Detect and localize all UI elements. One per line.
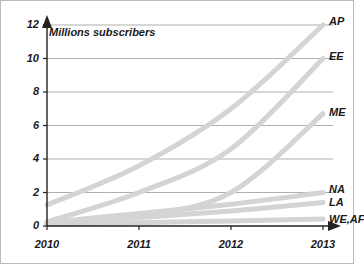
x-tick-label: 2011	[117, 238, 161, 250]
series-label-na: NA	[329, 183, 345, 195]
series-label-la: LA	[329, 196, 344, 208]
y-tick-label: 0	[19, 219, 39, 231]
x-tick-label: 2013	[301, 238, 345, 250]
y-tick-label: 8	[19, 85, 39, 97]
gridlines-group	[47, 25, 333, 193]
series-label-me: ME	[329, 106, 346, 118]
y-tick-label: 4	[19, 152, 39, 164]
series-label-ap: AP	[329, 15, 344, 27]
x-tick-label: 2012	[209, 238, 253, 250]
x-tick-label: 2010	[25, 238, 69, 250]
series-line	[47, 25, 323, 205]
y-tick-label: 6	[19, 119, 39, 131]
series-label-ee: EE	[329, 50, 344, 62]
axis-title: Millions subscribers	[49, 25, 155, 39]
series-label-we-af: WE,AF	[329, 213, 364, 225]
y-tick-label: 12	[19, 18, 39, 30]
y-tick-label: 10	[19, 52, 39, 64]
y-tick-label: 2	[19, 186, 39, 198]
chart-canvas	[1, 1, 355, 264]
series-group	[47, 25, 323, 224]
